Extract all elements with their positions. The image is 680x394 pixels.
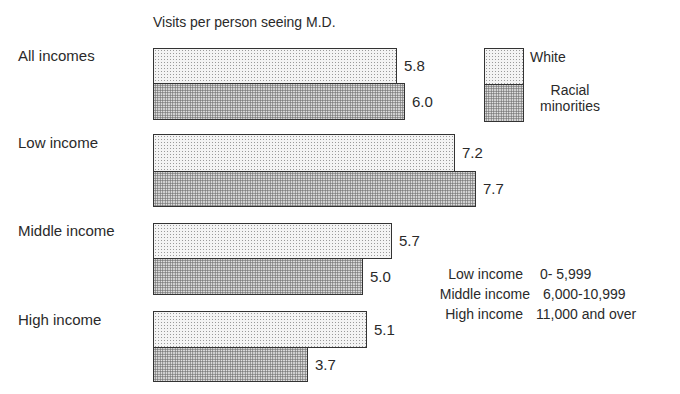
legend-swatch-white (484, 48, 524, 85)
category-label-high-income: High income (18, 311, 101, 328)
value-label-high-income-white: 5.1 (374, 321, 395, 338)
bar-middle-income-white (153, 223, 392, 259)
income-key-high-range: 11,000 and over (536, 306, 636, 322)
value-label-low-income-racial-minorities: 7.7 (483, 180, 504, 197)
bar-all-incomes-white (153, 48, 397, 84)
bar-high-income-racial-minorities (153, 347, 308, 382)
value-label-all-incomes-racial-minorities: 6.0 (412, 93, 433, 110)
legend-swatch-racial-minorities (484, 84, 524, 122)
value-label-high-income-racial-minorities: 3.7 (315, 356, 336, 373)
category-label-all-incomes: All incomes (18, 47, 95, 64)
value-label-low-income-white: 7.2 (462, 144, 483, 161)
income-key-low-label: Low income (427, 266, 523, 282)
income-key-middle-range: 6,000-10,999 (543, 286, 626, 302)
bar-all-incomes-racial-minorities (153, 83, 405, 120)
category-label-middle-income: Middle income (18, 222, 115, 239)
income-key-high-label: High income (420, 306, 523, 322)
bar-middle-income-racial-minorities (153, 258, 363, 295)
value-label-all-incomes-white: 5.8 (404, 57, 425, 74)
legend-label-line-1: Racial (530, 82, 610, 98)
legend-label-racial-minorities: Racial minorities (530, 82, 610, 114)
income-key-low-range: 0- 5,999 (540, 266, 591, 282)
bar-high-income-white (153, 311, 367, 348)
chart-title: Visits per person seeing M.D. (153, 14, 336, 30)
legend-label-line-2: minorities (530, 98, 610, 114)
category-label-low-income: Low income (18, 134, 98, 151)
legend-label-white: White (530, 49, 566, 65)
bar-low-income-white (153, 134, 455, 172)
income-key-middle-label: Middle income (410, 286, 530, 302)
bar-low-income-racial-minorities (153, 171, 476, 207)
value-label-middle-income-racial-minorities: 5.0 (370, 268, 391, 285)
value-label-middle-income-white: 5.7 (399, 232, 420, 249)
